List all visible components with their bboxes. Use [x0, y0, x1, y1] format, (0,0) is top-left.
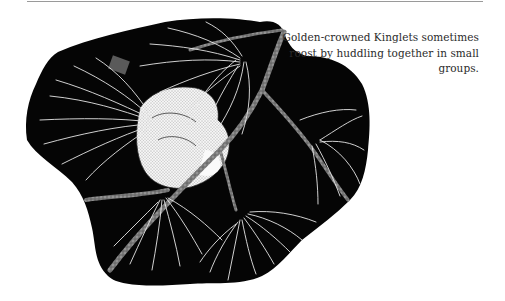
figure-caption: Golden-crowned Kinglets sometimes roost …	[279, 30, 479, 77]
